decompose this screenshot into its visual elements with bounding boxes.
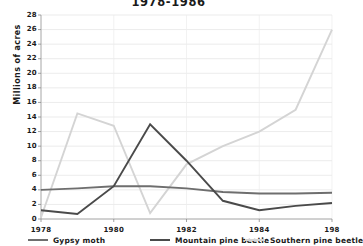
legend-item[interactable]: Gypsy moth — [28, 234, 105, 246]
chart-title: 1978-1986 — [0, 0, 337, 9]
legend-label: Gypsy moth — [53, 236, 105, 245]
y-axis-tick-label: 8 — [17, 157, 37, 164]
y-axis-tick-label: 24 — [17, 41, 37, 48]
legend-label: Southern pine beetle — [270, 236, 363, 245]
x-axis-tick-label: 198 — [317, 226, 347, 234]
y-axis-tick-label: 28 — [17, 12, 37, 19]
legend-item[interactable]: Southern pine beetle — [245, 234, 363, 246]
y-axis-tick-label: 18 — [17, 84, 37, 91]
y-axis-tick-label: 10 — [17, 143, 37, 150]
x-axis-tick-label: 1978 — [26, 226, 56, 234]
y-axis-tick-label: 4 — [17, 186, 37, 193]
y-axis-tick-label: 2 — [17, 201, 37, 208]
y-axis-tick-label: 12 — [17, 128, 37, 135]
y-axis-tick-label: 22 — [17, 55, 37, 62]
legend-swatch-icon — [28, 239, 48, 241]
x-axis-tick-label: 1984 — [244, 226, 274, 234]
y-axis-tick-label: 26 — [17, 26, 37, 33]
y-axis-tick-label: 16 — [17, 99, 37, 106]
x-axis-tick-label: 1980 — [99, 226, 129, 234]
y-axis-tick-label: 14 — [17, 114, 37, 121]
y-axis-tick-label: 0 — [17, 216, 37, 223]
y-axis-tick-label: 20 — [17, 70, 37, 77]
legend-swatch-icon — [245, 239, 265, 241]
legend-swatch-icon — [150, 239, 170, 241]
chart-legend: Gypsy mothMountain pine beetleSouthern p… — [0, 234, 337, 246]
x-axis-tick-label: 1982 — [172, 226, 202, 234]
y-axis-tick-label: 6 — [17, 172, 37, 179]
